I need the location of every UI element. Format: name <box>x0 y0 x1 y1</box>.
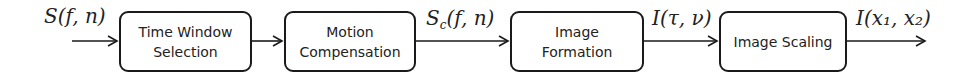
signal-processing-block-diagram: S(f, n) Time Window Selection Motion Com… <box>0 0 974 82</box>
block-motion-compensation: Motion Compensation <box>284 11 416 72</box>
block-image-formation: Image Formation <box>510 11 644 72</box>
signal-output-label: I(x₁, x₂) <box>856 7 931 29</box>
signal-args: (τ, ν) <box>660 6 712 30</box>
signal-symbol: S <box>44 4 58 28</box>
signal-input-label: S(f, n) <box>44 5 106 27</box>
block-label: Image Formation <box>542 22 613 62</box>
signal-args: (f, n) <box>446 6 494 30</box>
block-label: Time Window Selection <box>139 22 233 62</box>
block-label: Motion Compensation <box>299 22 400 62</box>
signal-args: (f, n) <box>58 4 106 28</box>
signal-args: (x₁, x₂) <box>864 6 931 30</box>
signal-symbol: I <box>856 6 864 30</box>
signal-symbol: I <box>652 6 660 30</box>
block-time-window-selection: Time Window Selection <box>119 11 252 72</box>
signal-compensated-label: Sc(f, n) <box>426 7 494 36</box>
block-image-scaling: Image Scaling <box>719 11 847 72</box>
signal-symbol: S <box>426 6 440 30</box>
block-label: Image Scaling <box>734 32 833 52</box>
signal-image-tau-nu-label: I(τ, ν) <box>652 7 711 29</box>
